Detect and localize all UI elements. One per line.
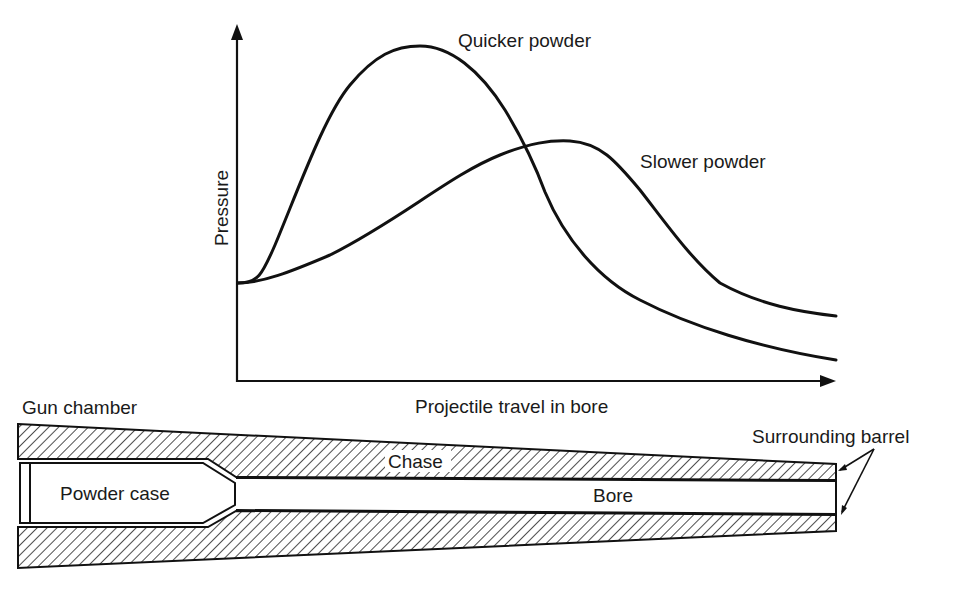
quicker-powder-label: Quicker powder [458, 30, 592, 51]
powder-case-label: Powder case [60, 483, 170, 504]
x-axis-label: Projectile travel in bore [415, 396, 608, 417]
pressure-diagram: Quicker powder Slower powder Pressure Pr… [0, 0, 972, 593]
gun-chamber-label: Gun chamber [22, 397, 138, 418]
y-axis-arrow-icon [231, 24, 243, 40]
bore-label: Bore [593, 485, 633, 506]
quicker-powder-curve [238, 46, 836, 360]
pointer-arrow-top-icon [838, 464, 847, 471]
barrel-cross-section: Gun chamber Chase Powder case Bore Surro… [18, 397, 909, 568]
surrounding-barrel-label: Surrounding barrel [752, 426, 909, 447]
pressure-chart: Quicker powder Slower powder Pressure Pr… [211, 24, 836, 417]
slower-powder-label: Slower powder [640, 151, 766, 172]
y-axis-label: Pressure [211, 170, 232, 246]
pointer-arrow-bottom-icon [841, 505, 847, 515]
x-axis-arrow-icon [820, 375, 836, 387]
chase-label: Chase [388, 451, 443, 472]
